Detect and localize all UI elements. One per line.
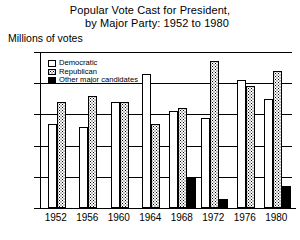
chart-title-line-2: by Major Party: 1952 to 1980 bbox=[0, 17, 300, 30]
bar-rep-1976 bbox=[246, 86, 255, 208]
legend-item-oth: Other major candidates bbox=[48, 76, 138, 85]
bar-dem-1964 bbox=[142, 74, 151, 208]
legend-swatch-dem-icon bbox=[48, 60, 56, 67]
bar-cluster bbox=[198, 52, 230, 208]
x-axis-baseline bbox=[40, 208, 296, 209]
bar-oth-1980 bbox=[282, 186, 291, 208]
bar-cluster bbox=[166, 52, 198, 208]
bar-dem-1956 bbox=[79, 127, 88, 208]
bar-rep-1964 bbox=[151, 124, 160, 208]
legend-label: Other major candidates bbox=[59, 76, 138, 85]
y-axis-tick bbox=[34, 208, 40, 209]
chart-legend: DemocraticRepublicanOther major candidat… bbox=[48, 59, 138, 85]
bar-rep-1956 bbox=[88, 96, 97, 208]
bar-dem-1972 bbox=[201, 118, 210, 208]
bar-rep-1960 bbox=[120, 102, 129, 208]
bar-cluster bbox=[229, 52, 261, 208]
chart-title: Popular Vote Cast for President, by Majo… bbox=[0, 4, 300, 30]
bar-dem-1952 bbox=[48, 124, 57, 208]
legend-swatch-rep-icon bbox=[48, 69, 56, 76]
y-axis-label: Millions of votes bbox=[8, 32, 83, 44]
bar-rep-1968 bbox=[178, 108, 187, 208]
bar-cluster bbox=[261, 52, 293, 208]
bar-dem-1968 bbox=[169, 111, 178, 208]
bar-oth-1972 bbox=[219, 199, 228, 208]
bar-oth-1968 bbox=[187, 177, 196, 208]
bar-rep-1952 bbox=[57, 102, 66, 208]
bar-cluster bbox=[135, 52, 167, 208]
legend-swatch-oth-icon bbox=[48, 77, 56, 84]
bar-rep-1980 bbox=[273, 71, 282, 208]
chart-title-line-1: Popular Vote Cast for President, bbox=[0, 4, 300, 17]
bar-rep-1972 bbox=[210, 61, 219, 208]
bar-dem-1960 bbox=[111, 102, 120, 208]
x-tick-label-1980: 1980 bbox=[256, 212, 296, 223]
bar-dem-1980 bbox=[264, 99, 273, 208]
bar-dem-1976 bbox=[237, 80, 246, 208]
